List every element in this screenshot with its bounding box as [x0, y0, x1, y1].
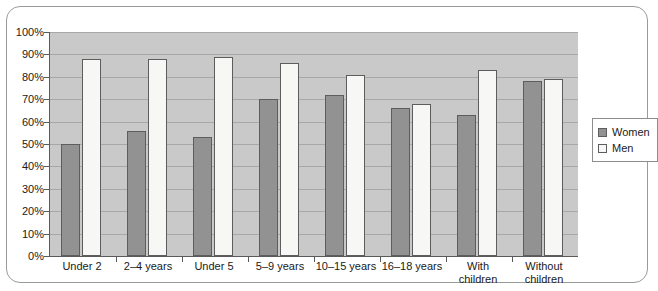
bar-men: [478, 70, 497, 256]
bar-women: [259, 99, 278, 256]
bar-men: [346, 75, 365, 256]
bar-men: [280, 63, 299, 256]
bar-group: [314, 32, 380, 256]
bar-women: [523, 81, 542, 256]
bar-men: [412, 104, 431, 256]
bar-group: [50, 32, 116, 256]
x-axis-tick-label: 16–18 years: [379, 260, 445, 273]
chart-legend: WomenMen: [592, 118, 658, 162]
bar-men: [214, 57, 233, 256]
x-axis-tick-label: Under 2: [49, 260, 115, 273]
legend-item: Men: [598, 140, 650, 156]
x-axis: Under 22–4 yearsUnder 55–9 years10–15 ye…: [49, 260, 577, 291]
x-axis-tick-label: With children: [445, 260, 511, 286]
bar-women: [391, 108, 410, 256]
bar-group: [380, 32, 446, 256]
legend-label: Men: [612, 143, 633, 154]
x-axis-tick-label: Under 5: [181, 260, 247, 273]
x-axis-tick-label: 5–9 years: [247, 260, 313, 273]
x-axis-tick-label: Without children: [511, 260, 577, 286]
bar-women: [193, 137, 212, 256]
legend-swatch-women: [598, 128, 607, 137]
bar-group: [248, 32, 314, 256]
x-axis-tick-label: 2–4 years: [115, 260, 181, 273]
legend-label: Women: [612, 127, 650, 138]
bar-men: [148, 59, 167, 256]
bar-women: [457, 115, 476, 256]
bar-women: [127, 131, 146, 256]
legend-swatch-men: [598, 144, 607, 153]
plot-area: [49, 32, 578, 257]
bar-men: [82, 59, 101, 256]
bar-group: [116, 32, 182, 256]
bar-women: [61, 144, 80, 256]
bar-group: [182, 32, 248, 256]
bar-group: [512, 32, 578, 256]
x-axis-tick-label: 10–15 years: [313, 260, 379, 273]
bar-group: [446, 32, 512, 256]
legend-item: Women: [598, 124, 650, 140]
bar-women: [325, 95, 344, 256]
bar-men: [544, 79, 563, 256]
